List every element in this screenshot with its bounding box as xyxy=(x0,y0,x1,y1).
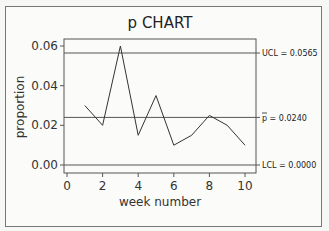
x-tick-label: 2 xyxy=(99,179,107,193)
proportion-series xyxy=(85,46,245,145)
x-axis xyxy=(67,173,245,177)
x-tick-label: 6 xyxy=(170,179,178,193)
y-tick-label: 0.06 xyxy=(31,39,58,53)
y-tick-label: 0.04 xyxy=(31,79,58,93)
x-tick-label: 0 xyxy=(63,179,71,193)
y-tick-label: 0.02 xyxy=(31,118,58,132)
x-tick-label: 10 xyxy=(237,179,252,193)
y-axis xyxy=(60,46,64,165)
center-label: p = 0.0240 xyxy=(262,114,307,123)
y-tick-label: 0.00 xyxy=(31,158,58,172)
x-tick-label: 4 xyxy=(134,179,142,193)
y-axis-label: proportion xyxy=(13,76,27,139)
lcl-label: LCL = 0.0000 xyxy=(262,161,316,170)
x-tick-label: 8 xyxy=(206,179,214,193)
p-chart: p CHART 0.00 0.02 0.04 0.06 proportion 0… xyxy=(0,0,329,231)
chart-title: p CHART xyxy=(128,14,194,32)
ucl-label: UCL = 0.0565 xyxy=(262,49,318,58)
x-axis-label: week number xyxy=(119,195,201,209)
